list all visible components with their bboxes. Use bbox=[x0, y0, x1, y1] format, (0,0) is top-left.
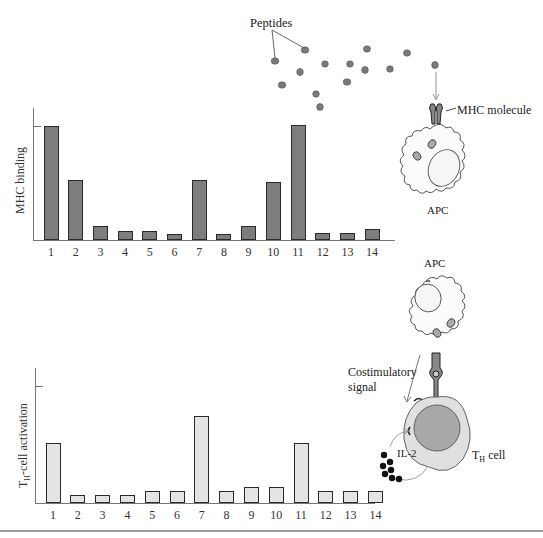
costimulatory-label: Costimulatory signal bbox=[348, 365, 417, 395]
apc-th-illustration bbox=[0, 0, 543, 538]
tcr-mhc-complex-icon bbox=[430, 353, 443, 398]
th-cell-nucleus bbox=[414, 405, 460, 451]
th-cell-label: TH cell bbox=[472, 448, 505, 464]
il2-label: IL-2 bbox=[397, 447, 417, 459]
